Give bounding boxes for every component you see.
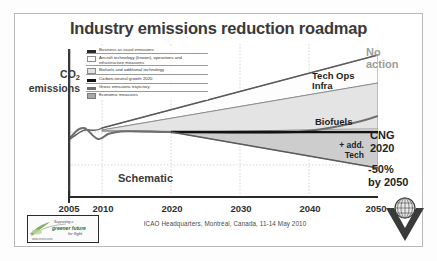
x-tick-2010: 2010 [92, 203, 113, 214]
x-tick-2040: 2040 [299, 203, 320, 214]
page-title: Industry emissions reduction roadmap [0, 19, 437, 38]
slide-canvas: Industry emissions reduction roadmap CO2… [0, 0, 437, 261]
annotation-cng-2020-line2: 2020 [370, 142, 394, 154]
legend-label: Aircraft technology (known), operations … [99, 55, 208, 65]
annotation-cng-2020-line1: CNG [370, 129, 394, 141]
legend-item: Gross emissions trajectory [86, 84, 208, 92]
legend-swatch-bau-line-icon [87, 50, 96, 53]
annotation-no-action: No action [366, 46, 398, 70]
footer-event-text: ICAO Headquarters, Montréal, Canada, 11-… [110, 220, 340, 227]
annotation-no-action-line2: action [366, 58, 398, 70]
annotation-reduction-line1: -50% [368, 163, 394, 175]
legend-label: Economic measures [99, 92, 138, 97]
x-tick-2005: 2005 [58, 203, 79, 214]
annotation-tech-ops-infra: Tech Ops Infra [312, 71, 374, 91]
annotation-no-action-line1: No [366, 46, 381, 58]
chart-legend: Business as usual emissions Aircraft tec… [86, 46, 208, 100]
annotation-reduction-line2: by 2050 [368, 176, 408, 188]
legend-swatch-cng-line-icon [87, 79, 96, 83]
legend-item: Carbon-neutral growth 2020 [86, 75, 208, 84]
icao-logo-icon [383, 196, 427, 244]
annotation-fifty-percent-by-2050: -50% by 2050 [368, 163, 408, 188]
annotation-biofuels: Biofuels [315, 117, 352, 127]
legend-label: Gross emissions trajectory [99, 84, 150, 89]
legend-swatch-economic-measures-box-icon [87, 93, 96, 99]
legend-swatch-aircraft-tech-box-icon [87, 56, 96, 62]
annotation-schematic: Schematic [118, 172, 173, 184]
enviro-aero-line3: for flight [68, 231, 82, 236]
legend-label: Business as usual emissions [99, 47, 154, 52]
annotation-additional-tech: + add. Tech [300, 141, 364, 160]
legend-label: Carbon-neutral growth 2020 [99, 76, 152, 81]
legend-item: Aircraft technology (known), operations … [86, 54, 208, 66]
legend-swatch-gross-trajectory-line-icon [87, 87, 96, 90]
legend-item: Economic measures [86, 92, 208, 100]
annotation-additional-tech-line2: Tech [345, 150, 364, 160]
enviro-aero-line4: www.enviro.aero [32, 237, 53, 241]
enviro-aero-logo: Supporting a greener future for flight w… [27, 215, 99, 243]
x-tick-2020: 2020 [161, 203, 182, 214]
annotation-tech-ops-infra-line2: Infra [312, 80, 333, 91]
x-tick-2030: 2030 [230, 203, 251, 214]
annotation-additional-tech-line1: + add. [339, 140, 364, 150]
legend-label: Biofuels and additional technology [99, 67, 164, 72]
legend-item: Biofuels and additional technology [86, 66, 208, 75]
annotation-cng-2020: CNG 2020 [370, 129, 394, 154]
legend-item: Business as usual emissions [86, 46, 208, 54]
legend-swatch-biofuels-box-icon [87, 68, 96, 74]
enviro-aero-line1: Supporting a [54, 220, 73, 224]
